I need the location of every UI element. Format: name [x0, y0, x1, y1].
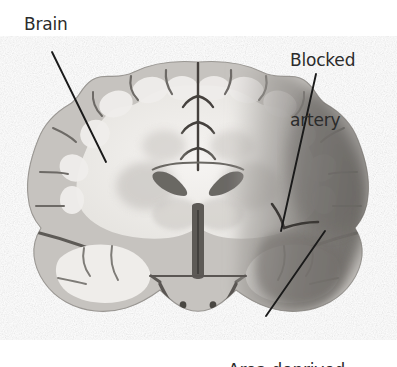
label-blocked-artery: Blocked artery — [290, 10, 355, 170]
label-blocked-artery-line2: artery — [290, 110, 355, 130]
label-area-deprived-of-blood: Area deprived of blood — [228, 320, 345, 367]
brain-illustration: Brain Blocked artery Area deprived of bl… — [0, 0, 397, 367]
third-ventricle — [192, 203, 204, 279]
label-brain: Brain — [24, 14, 68, 34]
label-area-deprived-line1: Area deprived — [228, 360, 345, 367]
label-blocked-artery-line1: Blocked — [290, 50, 355, 70]
